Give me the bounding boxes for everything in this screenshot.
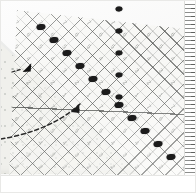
- edge-tick-scale-major: [191, 0, 196, 176]
- quilting-ruler[interactable]: 7654321765432176654321765432176554321765…: [0, 0, 196, 193]
- edge-tick-scale: [184, 0, 196, 176]
- screenshot-root: 7654321765432176654321765432176554321765…: [0, 0, 196, 193]
- ruler-acrylic-sheen: [0, 0, 196, 193]
- bottom-white-margin: [0, 175, 196, 193]
